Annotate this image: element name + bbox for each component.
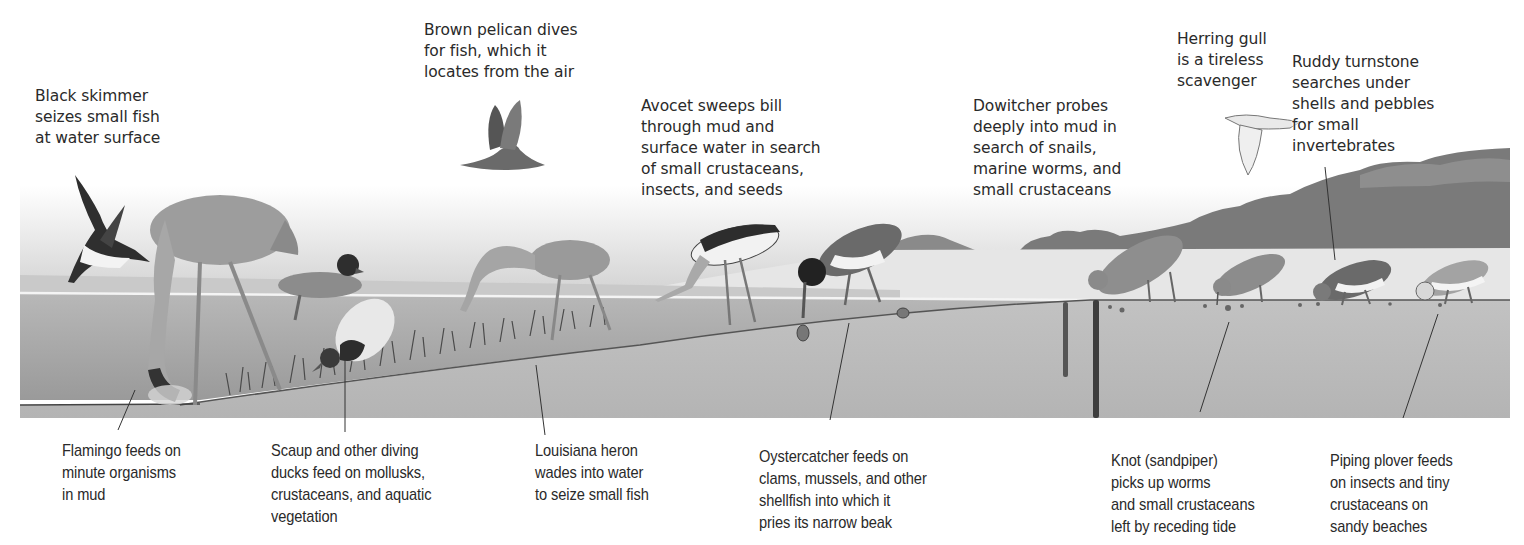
label-avocet: Avocet sweeps bill through mud and surfa… xyxy=(641,96,821,201)
label-knot: Knot (sandpiper) picks up worms and smal… xyxy=(1111,450,1255,538)
label-louisiana-heron: Louisiana heron wades into water to seiz… xyxy=(535,440,649,506)
label-scaup: Scaup and other diving ducks feed on mol… xyxy=(271,440,431,528)
label-piping-plover: Piping plover feeds on insects and tiny … xyxy=(1330,450,1453,538)
label-ruddy-turnstone: Ruddy turnstone searches under shells an… xyxy=(1292,52,1434,157)
shorebird-feeding-niches-figure: Black skimmer seizes small fish at water… xyxy=(0,0,1524,545)
label-black-skimmer: Black skimmer seizes small fish at water… xyxy=(35,86,160,149)
label-dowitcher: Dowitcher probes deeply into mud in sear… xyxy=(973,96,1121,201)
label-flamingo: Flamingo feeds on minute organisms in mu… xyxy=(62,440,181,506)
label-brown-pelican: Brown pelican dives for fish, which it l… xyxy=(424,20,577,83)
label-oystercatcher: Oystercatcher feeds on clams, mussels, a… xyxy=(759,446,927,534)
label-herring-gull: Herring gull is a tireless scavenger xyxy=(1177,29,1267,92)
